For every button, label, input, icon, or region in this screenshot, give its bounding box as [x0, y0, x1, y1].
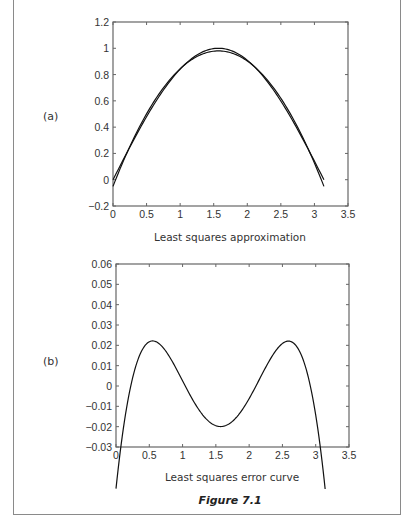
x-tick-label: 2	[246, 449, 252, 461]
y-tick-label: 0.05	[92, 278, 113, 290]
y-tick-label: 1	[103, 42, 109, 54]
x-tick-label: 1	[180, 449, 186, 461]
y-tick-label: 0.06	[92, 258, 113, 270]
y-tick-label: 1.2	[94, 16, 109, 28]
y-tick-label: −0.01	[85, 400, 112, 412]
x-tick-label: 2.5	[275, 449, 290, 461]
chart-a-title: Least squares approximation	[154, 231, 306, 243]
y-tick-label: 0.03	[92, 319, 113, 331]
y-tick-label: 0.2	[94, 147, 109, 159]
y-tick-label: 0.02	[92, 339, 113, 351]
y-tick-label: −0.2	[88, 200, 109, 212]
x-tick-label: 3	[312, 208, 318, 220]
y-tick-label: 0	[103, 174, 109, 186]
y-tick-label: 0.4	[94, 121, 109, 133]
y-tick-label: −0.02	[85, 421, 112, 433]
series-quadratic-fit	[113, 51, 324, 186]
series-sine	[113, 48, 324, 179]
x-tick-label: 3	[313, 449, 319, 461]
y-tick-label: −0.03	[85, 441, 112, 453]
x-tick-label: 2.5	[274, 208, 289, 220]
x-tick-label: 0	[113, 449, 119, 461]
figure-caption: Figure 7.1	[198, 494, 261, 507]
x-tick-label: 3.5	[341, 208, 356, 220]
x-tick-label: 3.5	[342, 449, 357, 461]
figure-canvas: 00.511.522.533.5−0.200.20.40.60.811.2 00…	[0, 0, 411, 532]
y-tick-label: 0.04	[92, 299, 113, 311]
chart-least-squares-approximation: 00.511.522.533.5−0.200.20.40.60.811.2	[88, 16, 355, 220]
x-tick-label: 1	[177, 208, 183, 220]
x-tick-label: 1.5	[209, 449, 224, 461]
series-error	[116, 341, 325, 489]
panel-label-b: (b)	[43, 355, 59, 368]
x-tick-label: 2	[244, 208, 250, 220]
x-tick-label: 0	[110, 208, 116, 220]
x-tick-label: 0.5	[139, 208, 154, 220]
y-tick-label: 0.6	[94, 95, 109, 107]
panel-label-a: (a)	[43, 110, 58, 123]
chart-least-squares-error: 00.511.522.533.5−0.03−0.02−0.0100.010.02…	[85, 258, 356, 489]
x-tick-label: 1.5	[206, 208, 221, 220]
y-tick-label: 0.01	[92, 360, 113, 372]
y-tick-label: 0	[106, 380, 112, 392]
chart-b-title: Least squares error curve	[165, 471, 299, 483]
y-tick-label: 0.8	[94, 69, 109, 81]
plot-area	[116, 264, 349, 447]
x-tick-label: 0.5	[142, 449, 157, 461]
